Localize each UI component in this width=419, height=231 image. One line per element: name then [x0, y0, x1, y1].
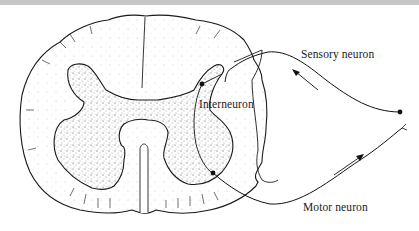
- sensory-arrow: [292, 69, 318, 90]
- interneuron-label: Interneuron: [199, 98, 254, 110]
- sensory-neuron-label: Sensory neuron: [301, 48, 374, 60]
- sensory-neuron-cell-body: [398, 110, 403, 115]
- spinal-cord-diagram: [0, 0, 419, 231]
- ventral-median-fissure: [140, 144, 148, 213]
- motor-end-fork: [402, 124, 407, 130]
- motor-neuron-label: Motor neuron: [303, 201, 368, 213]
- motor-arrow: [334, 154, 364, 175]
